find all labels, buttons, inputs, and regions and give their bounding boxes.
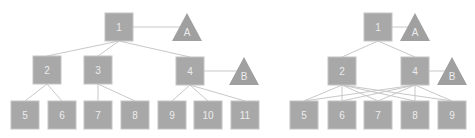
node-label: 9	[449, 110, 455, 121]
edge-3-8	[98, 84, 135, 101]
edge-1-4	[119, 41, 190, 57]
node-label: A	[184, 27, 191, 38]
node-label: 4	[187, 66, 193, 77]
network-graph: 1A24B56789	[290, 13, 467, 129]
node-7: 7	[84, 101, 112, 129]
diagram-canvas: 1A234B5678910111A24B56789	[0, 0, 475, 138]
node-4: 4	[176, 57, 204, 85]
node-label: 6	[59, 110, 65, 121]
node-9: 9	[158, 101, 186, 129]
node-5: 5	[11, 101, 39, 129]
node-6: 6	[328, 101, 356, 129]
node-4: 4	[401, 57, 429, 85]
node-3: 3	[84, 56, 112, 84]
node-1: 1	[105, 13, 133, 41]
node-2: 2	[33, 56, 61, 84]
edge-2-6	[47, 84, 62, 101]
node-label: A	[412, 27, 419, 38]
node-label: 6	[339, 110, 345, 121]
edge-1-4	[378, 41, 415, 57]
edge-1-2	[342, 41, 378, 57]
edge-2-5	[25, 84, 47, 101]
node-2: 2	[328, 57, 356, 85]
node-label: 9	[169, 110, 175, 121]
node-label: 7	[95, 110, 101, 121]
node-label: 4	[412, 66, 418, 77]
node-5: 5	[290, 101, 318, 129]
edge-4-9	[172, 85, 190, 101]
hierarchy-tree: 1A234B567891011	[11, 13, 259, 129]
node-1: 1	[364, 13, 392, 41]
node-label: 8	[412, 110, 418, 121]
node-6: 6	[48, 101, 76, 129]
node-label: 2	[44, 65, 50, 76]
node-label: 10	[202, 110, 214, 121]
node-label: 1	[375, 22, 381, 33]
node-label: 11	[240, 110, 251, 121]
node-8: 8	[401, 101, 429, 129]
node-label: B	[241, 71, 248, 82]
node-label: 7	[375, 110, 381, 121]
node-label: 5	[301, 110, 307, 121]
node-10: 10	[194, 101, 222, 129]
node-label: 2	[339, 66, 345, 77]
node-label: 1	[116, 22, 122, 33]
node-label: 3	[95, 65, 101, 76]
node-label: 8	[132, 110, 138, 121]
node-11: 11	[231, 101, 259, 129]
node-label: 5	[22, 110, 28, 121]
node-9: 9	[438, 101, 466, 129]
node-8: 8	[121, 101, 149, 129]
node-label: B	[449, 71, 456, 82]
node-7: 7	[364, 101, 392, 129]
